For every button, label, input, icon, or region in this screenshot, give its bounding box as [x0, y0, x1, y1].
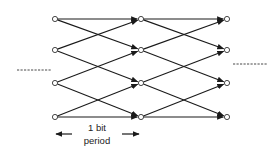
trellis-diagram: 1 bit period [0, 0, 279, 154]
state-node [52, 47, 57, 52]
state-node [224, 114, 229, 119]
state-node [138, 80, 143, 85]
state-node [138, 16, 143, 21]
state-node [224, 80, 229, 85]
state-node [138, 47, 143, 52]
state-node [224, 47, 229, 52]
state-node [52, 114, 57, 119]
state-node [52, 80, 57, 85]
state-node [138, 114, 143, 119]
period-label-line2: period [84, 135, 110, 146]
period-label-line1: 1 bit [88, 122, 106, 133]
state-node [52, 16, 57, 21]
state-node [224, 16, 229, 21]
bit-period-indicator: 1 bit period [56, 122, 139, 146]
